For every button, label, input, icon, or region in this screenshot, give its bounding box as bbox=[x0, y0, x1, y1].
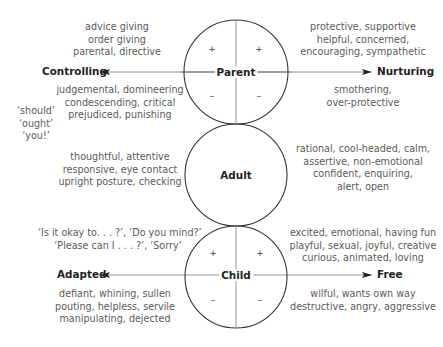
child-plus-left: + bbox=[209, 248, 217, 258]
free-negative-traits: wilful, wants own way destructive, angry… bbox=[287, 288, 439, 313]
parent-plus-left: + bbox=[208, 44, 216, 54]
child-minus-left: – bbox=[211, 295, 216, 305]
free-label: Free bbox=[377, 268, 403, 280]
adapted-positive-phrases: ‘Is it okay to. . . ?’, ‘Do you mind?’ ‘… bbox=[38, 227, 198, 252]
nurturing-negative-traits: smothering, over-protective bbox=[313, 84, 413, 109]
controlling-positive-traits: advice giving order giving parental, dir… bbox=[62, 21, 172, 59]
adult-right-traits: rational, cool-headed, calm, assertive, … bbox=[290, 143, 436, 193]
nurturing-positive-traits: protective, supportive helpful, concerne… bbox=[293, 21, 433, 59]
adult-left-traits: thoughtful, attentive responsive, eye co… bbox=[55, 151, 185, 189]
parent-plus-right: + bbox=[255, 44, 263, 54]
child-plus-right: + bbox=[256, 248, 264, 258]
adapted-label: Adapted bbox=[57, 268, 106, 280]
child-label: Child bbox=[219, 269, 253, 281]
parent-minus-right: – bbox=[257, 91, 262, 101]
nurturing-label: Nurturing bbox=[377, 65, 434, 77]
adult-label: Adult bbox=[218, 169, 253, 181]
controlling-label: Controlling bbox=[42, 65, 107, 77]
child-minus-right: – bbox=[258, 295, 263, 305]
parent-label: Parent bbox=[215, 66, 258, 78]
controlling-negative-traits: judgemental, domineering condescending, … bbox=[55, 84, 185, 122]
free-positive-traits: excited, emotional, having fun playful, … bbox=[287, 227, 439, 265]
adapted-negative-traits: defiant, whining, sullen pouting, helple… bbox=[55, 288, 175, 326]
controlling-words: ‘should’ ‘ought’ ‘you!’ bbox=[14, 105, 58, 143]
parent-minus-left: – bbox=[210, 91, 215, 101]
